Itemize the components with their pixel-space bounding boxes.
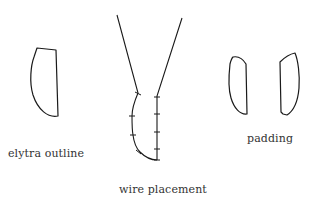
wire-tick-marks: [129, 92, 160, 160]
elytra-outline-label: elytra outline: [8, 147, 84, 160]
elytra-outline-shape: [31, 48, 58, 116]
padding-right-shape: [280, 53, 299, 115]
wire-right-strand: [157, 18, 182, 160]
wire-placement-shape: [117, 15, 182, 160]
wire-left-strand: [117, 15, 157, 160]
padding-label: padding: [247, 132, 293, 145]
diagram-canvas: [0, 0, 317, 201]
padding-left-shape: [229, 57, 247, 114]
wire-placement-label: wire placement: [119, 183, 207, 196]
